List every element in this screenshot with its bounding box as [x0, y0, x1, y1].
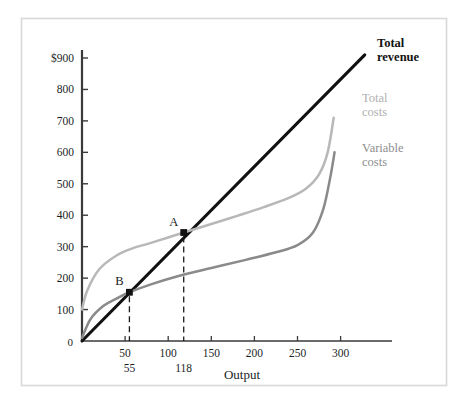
- y-tick-label: 800: [57, 83, 75, 95]
- break-even-chart: 100200300400500600700800$900 50100150200…: [0, 0, 468, 404]
- x-tick-label: 250: [289, 347, 307, 359]
- y-tick-label: 300: [57, 241, 75, 253]
- x-tick-label: 300: [332, 347, 350, 359]
- series-label-total-costs: Totalcosts: [362, 91, 388, 119]
- x-tick-label: 50: [119, 347, 131, 359]
- x-tick-label: 150: [203, 347, 221, 359]
- y-tick-label: 100: [57, 304, 75, 316]
- chart-figure: 100200300400500600700800$900 50100150200…: [0, 0, 468, 404]
- point-label-A: A: [169, 215, 178, 229]
- origin-label: 0: [68, 336, 74, 348]
- marker-point-B: [126, 289, 133, 296]
- y-tick-label: 600: [57, 146, 75, 158]
- y-tick-label: 200: [57, 272, 75, 284]
- x-tick-label: 100: [160, 347, 178, 359]
- y-tick-label: 500: [57, 178, 75, 190]
- marker-point-A: [180, 229, 187, 236]
- y-tick-label: $900: [51, 52, 74, 64]
- x-annotation-A: 118: [175, 362, 192, 374]
- y-tick-label: 400: [57, 209, 75, 221]
- y-tick-label: 700: [57, 115, 75, 127]
- point-label-B: B: [115, 274, 123, 288]
- x-annotation-B: 55: [124, 362, 136, 374]
- x-axis-title: Output: [224, 367, 261, 382]
- x-tick-label: 200: [246, 347, 264, 359]
